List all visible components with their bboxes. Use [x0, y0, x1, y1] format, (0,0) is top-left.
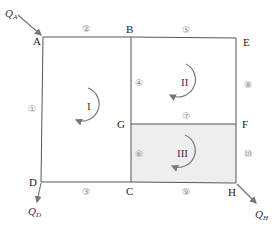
node-label-d: D	[29, 176, 37, 188]
pipe-label-2: ②	[82, 24, 90, 34]
node-label-f: F	[242, 118, 248, 130]
pipe-label-4: ④	[135, 78, 143, 88]
flow-arrow-qd	[37, 183, 41, 202]
node-label-e: E	[243, 36, 250, 48]
pipe-label-1: ①	[28, 104, 36, 114]
pipe-label-3: ③	[82, 187, 90, 197]
pipe-9	[131, 182, 236, 183]
loop-label-ii: II	[181, 76, 189, 88]
node-label-g: G	[117, 118, 125, 130]
pipe-label-9: ⑨	[182, 187, 190, 197]
pipe-label-7: ⑦	[182, 111, 190, 121]
pipe-label-5: ⑤	[182, 25, 190, 35]
node-label-c: C	[126, 185, 133, 197]
pipe-1	[41, 37, 43, 182]
flow-label-qd: QD	[28, 205, 41, 219]
pipe-network-diagram: A B C D E F G H ① ② ③ ④ ⑤ ⑥ ⑦ ⑧ ⑨ ⑩ I II…	[0, 0, 277, 230]
flow-label-qh: QH	[255, 208, 269, 222]
pipe-label-8: ⑧	[244, 80, 252, 90]
node-label-h: H	[228, 186, 236, 198]
node-label-a: A	[33, 35, 41, 47]
loop-label-i: I	[87, 100, 91, 112]
pipe-label-10: ⑩	[244, 149, 252, 159]
node-label-b: B	[126, 23, 133, 35]
pipe-label-6: ⑥	[135, 149, 143, 159]
flow-arrow-qh	[237, 184, 256, 203]
flow-arrow-qa	[18, 15, 41, 35]
loop-label-iii: III	[177, 147, 188, 159]
pipe-5	[131, 37, 236, 38]
flow-label-qa: QA	[5, 7, 18, 21]
